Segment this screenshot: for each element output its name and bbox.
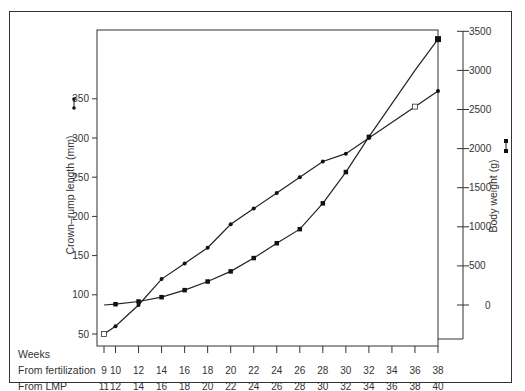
fertilization-week-label: 22 — [248, 365, 260, 376]
right-axis-label: Body weight (g) — [487, 160, 499, 233]
fertilization-week-label: 14 — [156, 365, 168, 376]
fertilization-week-label: 20 — [225, 365, 237, 376]
growth-chart: 50100150200250300350 0500100015002000250… — [0, 0, 525, 391]
weight-data-point — [435, 36, 441, 42]
fertilization-week-label: 16 — [179, 365, 191, 376]
lmp-week-label: 24 — [248, 381, 260, 391]
right-tick-label: 3000 — [469, 65, 492, 76]
right-tick-label: 2500 — [469, 104, 492, 115]
lmp-week-label: 12 — [110, 381, 122, 391]
crl-data-point — [229, 222, 233, 226]
weight-data-point — [159, 295, 164, 300]
weight-data-point — [275, 241, 280, 246]
fertilization-week-label: 32 — [363, 365, 375, 376]
left-axis-label: Crown–rump length (mm) — [64, 135, 76, 254]
fertilization-week-label: 30 — [340, 365, 352, 376]
lmp-row-label: From LMP — [18, 380, 67, 391]
weight-data-point — [182, 288, 187, 293]
fertilization-week-label: 24 — [271, 365, 283, 376]
weight-data-point — [205, 279, 210, 284]
crl-data-point — [436, 89, 440, 93]
fertilization-row-label: From fertilization — [18, 364, 96, 376]
right-tick-label: 0 — [485, 300, 491, 311]
crl-data-point — [183, 261, 187, 265]
weight-data-point — [344, 170, 349, 175]
lmp-week-label: 28 — [294, 381, 306, 391]
weight-data-point — [228, 269, 233, 274]
crl-data-point — [160, 277, 164, 281]
left-tick-label: 100 — [72, 289, 89, 300]
series-body-weight — [104, 36, 441, 306]
weight-data-point — [321, 201, 326, 206]
weight-data-point — [251, 256, 256, 261]
lmp-week-label: 18 — [179, 381, 191, 391]
crl-data-point — [275, 191, 279, 195]
left-tick-label: 50 — [78, 329, 90, 340]
fertilization-week-label: 18 — [202, 365, 214, 376]
fertilization-week-label: 9 — [101, 365, 107, 376]
right-y-axis: 0500100015002000250030003500 — [438, 26, 492, 339]
lmp-week-label: 30 — [317, 381, 329, 391]
lmp-week-label: 38 — [409, 381, 421, 391]
lmp-week-label: 36 — [386, 381, 398, 391]
crl-data-point — [344, 152, 348, 156]
lmp-week-label: 32 — [340, 381, 352, 391]
intersection-marker — [102, 332, 107, 337]
lmp-week-label: 34 — [363, 381, 375, 391]
lmp-week-label: 11 — [99, 381, 110, 391]
weight-data-point — [367, 135, 372, 140]
crl-data-point — [114, 324, 118, 328]
lmp-week-label: 22 — [225, 381, 237, 391]
fertilization-week-label: 12 — [133, 365, 145, 376]
weight-data-point — [113, 302, 118, 307]
weeks-header: Weeks — [18, 348, 50, 360]
fertilization-week-label: 38 — [432, 365, 444, 376]
crl-data-point — [321, 160, 325, 164]
crl-data-point — [252, 207, 256, 211]
crl-data-point — [298, 175, 302, 179]
lmp-week-label: 16 — [156, 381, 168, 391]
weight-data-point — [136, 299, 141, 304]
right-tick-label: 3500 — [469, 26, 492, 37]
intersection-marker — [412, 104, 417, 109]
weight-legend-marker-icon — [504, 139, 508, 153]
x-axis: 9111012121414161618182020222224242626282… — [99, 346, 444, 391]
fertilization-week-label: 28 — [317, 365, 329, 376]
fertilization-week-label: 34 — [386, 365, 398, 376]
lmp-week-label: 26 — [271, 381, 283, 391]
fertilization-week-label: 36 — [409, 365, 421, 376]
weight-data-point — [298, 227, 303, 232]
lmp-week-label: 20 — [202, 381, 214, 391]
crl-data-point — [206, 246, 210, 250]
fertilization-week-label: 26 — [294, 365, 306, 376]
lmp-week-label: 14 — [133, 381, 145, 391]
right-tick-label: 500 — [469, 260, 486, 271]
plot-area — [97, 30, 438, 346]
lmp-week-label: 40 — [432, 381, 444, 391]
left-y-axis: 50100150200250300350 — [72, 93, 97, 339]
fertilization-week-label: 10 — [110, 365, 122, 376]
right-tick-label: 2000 — [469, 143, 492, 154]
